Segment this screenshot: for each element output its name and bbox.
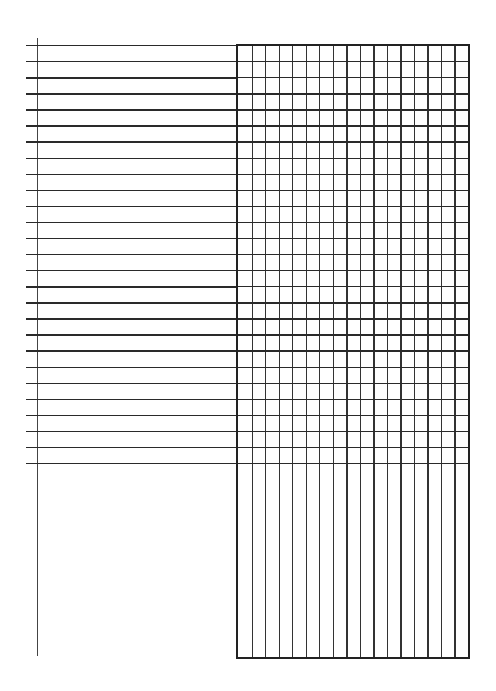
grid-row-line (238, 463, 468, 464)
grid-row-line (238, 61, 468, 62)
grid-row-line (238, 383, 468, 384)
grid-row-line (238, 415, 468, 416)
ruled-line (26, 254, 236, 255)
grid-row-line (238, 206, 468, 207)
grid-row-line (238, 431, 468, 432)
ruled-line (26, 174, 236, 175)
grid-row-line (238, 174, 468, 175)
grid-row-line (238, 270, 468, 271)
grid-row-line (238, 109, 468, 110)
ruled-line (26, 109, 236, 110)
ruled-line (26, 77, 236, 78)
ruled-line (26, 270, 236, 271)
ruled-line (26, 431, 236, 432)
ruled-line (26, 399, 236, 400)
grid-row-line (238, 125, 468, 126)
grid-row-line (238, 141, 468, 142)
ruled-line (26, 350, 236, 351)
grid-row-line (238, 447, 468, 448)
ruled-line (26, 334, 236, 335)
grid-row-line (238, 367, 468, 368)
grid-row-line (238, 238, 468, 239)
ruled-line (26, 318, 236, 319)
ruled-line (26, 125, 236, 126)
ruled-line (26, 190, 236, 191)
ruled-line (26, 463, 236, 464)
ruled-line (26, 286, 236, 287)
ruled-line (26, 302, 236, 303)
grid-row-line (238, 350, 468, 351)
ruled-line (26, 61, 236, 62)
ruled-line (26, 158, 236, 159)
grid-row-line (238, 254, 468, 255)
ruled-line (26, 415, 236, 416)
left-margin-line (37, 38, 38, 656)
grid-row-line (238, 302, 468, 303)
grid-row-line (238, 318, 468, 319)
grid-row-line (238, 158, 468, 159)
ruled-line (26, 93, 236, 94)
ruled-line (26, 141, 236, 142)
grid-row-line (238, 93, 468, 94)
ruled-line (26, 383, 236, 384)
grid-row-line (238, 334, 468, 335)
ruled-line (26, 45, 236, 46)
grid-row-line (238, 222, 468, 223)
grid-row-line (238, 286, 468, 287)
ruled-line (26, 367, 236, 368)
grid-row-line (238, 77, 468, 78)
grid-row-line (238, 399, 468, 400)
ruled-line (26, 238, 236, 239)
ruled-line (26, 222, 236, 223)
ruled-line (26, 447, 236, 448)
grid-table (236, 44, 470, 659)
ruled-line (26, 206, 236, 207)
grid-row-line (238, 190, 468, 191)
